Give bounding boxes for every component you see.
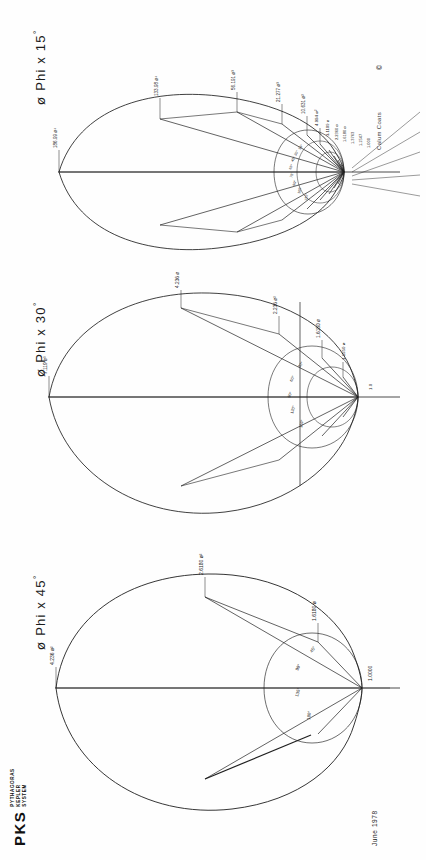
- tick-30-4: 150°: [298, 419, 304, 428]
- panel-degree-15: °: [32, 29, 42, 34]
- label-15-0: 186.99 ø⁴: [53, 128, 58, 148]
- brand-block: PKS PYTHAGORAS KEPLER SYSTEM: [10, 768, 29, 846]
- chord-b-30: [181, 460, 279, 486]
- label-15-11: 1.000: [366, 137, 371, 148]
- diagram-phi-45: 4.236 ø² 2.6180 ø² 1.6180 ø 1.0000 45° 9…: [0, 545, 426, 860]
- panel-title-text-15: Phi x 15: [33, 34, 48, 91]
- spoke-135-45: [205, 597, 362, 688]
- tick-45-0: 45°: [309, 645, 317, 654]
- label-45-1: 2.6180 ø²: [198, 553, 204, 575]
- label-15-5: 4.994 ø²: [314, 109, 319, 126]
- label-15-10: 1.1547: [358, 133, 363, 146]
- brand-subtitle: PYTHAGORAS KEPLER SYSTEM: [10, 768, 29, 806]
- spoke-90-45: [318, 642, 362, 688]
- leader-4-15: [352, 175, 420, 180]
- spoke-120-30: [279, 334, 358, 397]
- spoke-105-15: [320, 144, 344, 172]
- panel-phi-45: øPhi x 45°: [0, 545, 426, 860]
- label-15-8: 1.6180 ø: [342, 126, 347, 142]
- copyright-mark: ©: [376, 65, 383, 70]
- chord-d-15: [237, 220, 282, 232]
- tick-45-3: 180°: [306, 710, 312, 720]
- brand-acronym: PKS: [11, 811, 28, 846]
- panel-title-text-45: Phi x 45: [33, 579, 48, 636]
- label-45-3: 1.0000: [367, 665, 373, 681]
- spoke-195-15: [160, 172, 344, 225]
- label-45-0: 4.236 ø²: [49, 646, 55, 665]
- label-30-5: 1.0: [368, 383, 373, 390]
- label-15-7: 2.2360 ø: [334, 124, 339, 140]
- tick-30-0: 30°: [297, 360, 305, 368]
- label-15-9: 1.3763: [350, 131, 355, 144]
- tick-15-6: 105°: [297, 186, 303, 195]
- phi-symbol-30: ø: [33, 368, 48, 377]
- tick-15-3: 60°: [288, 163, 294, 170]
- label-45-2: 1.6180 ø: [311, 601, 317, 621]
- date-stamp: June 1978: [371, 810, 378, 846]
- panel-degree-30: °: [32, 301, 42, 306]
- panel-title-phi-45: øPhi x 45°: [32, 574, 48, 650]
- tick-30-3: 120°: [289, 405, 296, 415]
- phi-symbol-15: ø: [33, 96, 48, 105]
- tick-45-1: 90°: [294, 663, 301, 671]
- label-30-4: 1.1550 ø: [341, 342, 346, 360]
- panel-title-phi-15: øPhi x 15°: [32, 29, 48, 105]
- chord-heavy-45: [205, 735, 311, 779]
- panel-phi-15: øPhi x 15°: [0, 0, 426, 285]
- spoke-225-15: [282, 172, 344, 220]
- panel-degree-45: °: [32, 574, 42, 579]
- panel-phi-30: øPhi x 30°: [0, 272, 426, 557]
- label-15-1: 133.98 ø⁴: [154, 76, 159, 96]
- label-30-3: 1.6180 ø: [316, 319, 321, 338]
- label-15-4: 10.631 ø²: [301, 94, 306, 114]
- credit-text: Calum Coats: [376, 112, 382, 150]
- spoke-225-45: [205, 688, 362, 779]
- leader-5-15: [352, 184, 420, 196]
- panel-title-phi-30: øPhi x 30°: [32, 301, 48, 377]
- label-30-1: 4.236 ø²: [175, 272, 180, 288]
- panel-title-text-30: Phi x 30: [33, 306, 48, 363]
- tick-45-2: 135°: [294, 687, 301, 697]
- chord-b-15: [237, 112, 282, 124]
- spoke-270-30: [322, 397, 358, 436]
- diagram-phi-15: 186.99 ø⁴ 133.98 ø⁴ 56.191 ø³ 21.277 ø³ …: [0, 0, 426, 285]
- label-15-2: 56.191 ø³: [231, 70, 236, 90]
- spoke-255-15: [320, 172, 344, 200]
- label-15-3: 21.277 ø³: [276, 82, 281, 102]
- phi-symbol-45: ø: [33, 641, 48, 650]
- chord-c-15: [160, 225, 237, 232]
- spoke-270-45: [318, 688, 362, 734]
- tick-30-1: 60°: [288, 374, 295, 382]
- chord-a-30: [181, 308, 279, 334]
- diagram-phi-30: 7.119 ø³ 4.236 ø² 2.236 ø² 1.6180 ø 1.15…: [0, 272, 426, 557]
- brand-line-3: SYSTEM: [22, 768, 28, 806]
- drawing-sheet: øPhi x 15°: [0, 0, 426, 860]
- label-30-2: 2.236 ø²: [273, 296, 278, 314]
- chord-a-15: [160, 112, 237, 119]
- chord-top-45: [205, 597, 318, 642]
- label-15-6: 3.1109 ø: [325, 119, 330, 136]
- spoke-90-30: [322, 358, 358, 397]
